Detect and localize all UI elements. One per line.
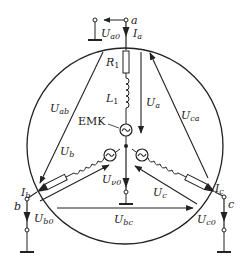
phase-b-branch [20, 149, 120, 252]
label-uca: Uca [181, 109, 200, 123]
label-l1: L1 [105, 92, 118, 106]
resistor-b [45, 174, 67, 189]
inductor-c [148, 158, 178, 174]
label-ua: Ua [146, 96, 160, 110]
label-un0: Uν0 [102, 173, 121, 187]
label-ib: Ib [20, 186, 30, 200]
label-ua0: Ua0 [101, 27, 120, 41]
circuit-diagram: a Ua0 Ia R1 L1 EMK Ua Uab Uca Ub Uc Uν0 … [0, 0, 245, 271]
terminal-a [124, 18, 128, 22]
label-uc0: Uc0 [197, 213, 216, 227]
label-ubc: Ubc [114, 213, 133, 227]
label-ia: Ia [132, 27, 142, 41]
label-r1: R1 [105, 56, 119, 70]
neutral-branch [119, 146, 133, 204]
label-ub0: Ub0 [34, 212, 54, 226]
label-uc: Uc [153, 186, 167, 200]
label-ic: Ic [214, 182, 224, 196]
label-uab: Uab [50, 102, 69, 116]
inductor-l1 [126, 78, 129, 108]
label-node-b: b [14, 200, 21, 213]
label-node-a: a [131, 14, 138, 27]
label-ub: Ub [60, 145, 74, 159]
phase-c-branch [132, 149, 231, 252]
label-emk: EMK [78, 115, 106, 128]
inductor-b [74, 158, 104, 174]
resistor-r1 [123, 51, 129, 73]
label-node-c: c [228, 198, 234, 211]
resistor-c [185, 174, 207, 189]
